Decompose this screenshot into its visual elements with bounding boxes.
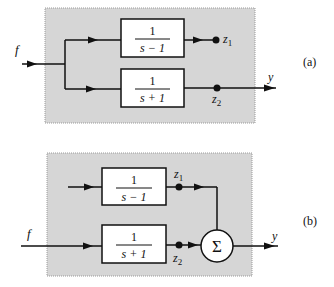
node-dot-z1 (176, 184, 183, 191)
summing-junction: Σ (201, 230, 233, 262)
numerator: 1 (131, 230, 137, 244)
node-dot-z1 (213, 37, 220, 44)
transfer-block-b1: 1 s − 1 (102, 168, 166, 205)
caption-a: (a) (303, 55, 316, 69)
input-label-f: f (15, 42, 21, 57)
transfer-block-a2: 1 s + 1 (121, 69, 184, 107)
numerator: 1 (150, 74, 156, 88)
numerator: 1 (150, 24, 156, 38)
diagram-b: 1 s − 1 1 s + 1 z1 z2 Σ (21, 153, 317, 276)
caption-b: (b) (303, 214, 317, 228)
output-label-y: y (271, 229, 278, 243)
output-label-y: y (267, 70, 274, 84)
denominator: s − 1 (140, 41, 165, 55)
transfer-block-a1: 1 s − 1 (121, 19, 184, 57)
denominator: s + 1 (140, 91, 165, 105)
block-diagram-canvas: 1 s − 1 1 s + 1 z1 z2 f y (a) (0, 0, 334, 287)
node-dot-z2 (214, 85, 221, 92)
node-dot-z2 (176, 242, 183, 249)
input-label-f: f (27, 226, 33, 241)
diagram-a: 1 s − 1 1 s + 1 z1 z2 f y (a) (15, 8, 316, 123)
numerator: 1 (131, 173, 137, 187)
sigma-symbol: Σ (212, 237, 222, 256)
denominator: s + 1 (122, 247, 147, 261)
transfer-block-b2: 1 s + 1 (102, 225, 166, 263)
denominator: s − 1 (122, 190, 147, 204)
